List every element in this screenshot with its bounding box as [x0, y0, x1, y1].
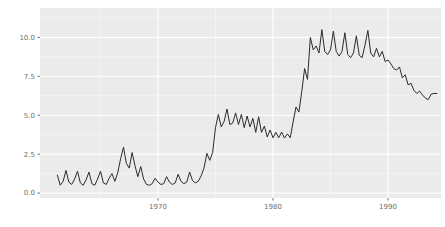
y-tick-label: 5.0 [24, 112, 35, 120]
x-tick-label: 1980 [264, 203, 282, 211]
y-tick-label: 0.0 [24, 189, 35, 197]
line-chart: 1970198019900.02.55.07.510.0 [0, 0, 445, 227]
y-tick-label: 2.5 [24, 151, 35, 159]
y-tick-label: 10.0 [19, 34, 35, 42]
x-tick-label: 1990 [379, 203, 397, 211]
y-tick-label: 7.5 [24, 73, 35, 81]
x-tick-label: 1970 [149, 203, 167, 211]
chart-figure: 1970198019900.02.55.07.510.0 [0, 0, 445, 227]
